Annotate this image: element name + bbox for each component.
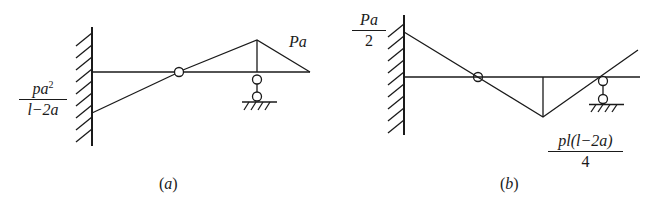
wall-hatching-a <box>76 33 92 142</box>
moment-label-pa-a: Pa <box>289 34 307 50</box>
diagram-a <box>76 27 310 146</box>
fraction-denominator-b-bottom: 4 <box>582 152 590 172</box>
caption-a: (a) <box>159 176 178 192</box>
fraction-numerator-b-left: Pa <box>360 10 378 30</box>
fraction-denominator-b-left: 2 <box>365 31 373 51</box>
roller-support-a <box>242 75 277 110</box>
roller-support-b <box>589 77 624 113</box>
wall-hatching-b <box>388 24 404 133</box>
hinge-a <box>175 68 184 77</box>
fraction-denominator-a: l−2a <box>27 100 58 120</box>
moment-label-fraction-b-bottom: pl(l−2a) 4 <box>548 131 623 172</box>
diagrams-canvas <box>0 0 663 206</box>
fraction-numerator-a: pa2 <box>33 78 54 99</box>
caption-b: (b) <box>500 176 519 192</box>
diagram-b <box>388 15 640 135</box>
fraction-numerator-b-bottom: pl(l−2a) <box>558 131 612 151</box>
moment-label-fraction-b-left: Pa 2 <box>352 10 386 51</box>
moment-label-fraction-a: pa2 l−2a <box>19 78 67 120</box>
moment-line-left-a <box>92 74 175 113</box>
